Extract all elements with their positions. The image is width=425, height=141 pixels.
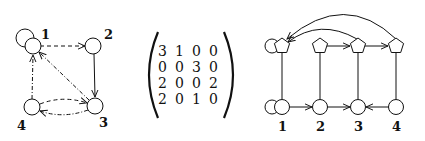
node-4 (24, 99, 40, 115)
matrix-cell: 3 (192, 59, 201, 75)
matrix-cell: 3 (158, 43, 167, 59)
column-label-4: 4 (392, 119, 401, 134)
matrix-cell: 0 (175, 75, 184, 91)
right-graph (265, 15, 404, 115)
diagram-canvas: 1 2 3 4 3 1 0 0 0 0 3 0 2 0 0 2 2 0 1 0 (0, 0, 425, 141)
right-paren (224, 32, 233, 118)
matrix-cell: 0 (158, 59, 167, 75)
matrix-cell: 0 (192, 43, 201, 59)
left-paren (149, 32, 158, 118)
column-label-2: 2 (316, 119, 325, 134)
edge-4-3 (40, 99, 87, 104)
matrix: 3 1 0 0 0 0 3 0 2 0 0 2 2 0 1 0 (149, 32, 233, 118)
pentagon-node-3 (350, 38, 365, 53)
circle-node-4 (389, 100, 404, 115)
node-label-3: 3 (99, 115, 108, 130)
matrix-cell: 1 (175, 43, 184, 59)
edge-3-1 (39, 52, 89, 100)
arc-top4-top1 (287, 15, 396, 40)
matrix-cell: 2 (158, 91, 167, 107)
matrix-cell: 0 (175, 91, 184, 107)
node-1 (25, 38, 41, 54)
pentagon-node-4 (388, 38, 403, 53)
edge-4-1 (32, 55, 33, 99)
matrix-cell: 2 (209, 75, 218, 91)
edge-2-3 (94, 54, 95, 97)
matrix-cell: 0 (209, 91, 218, 107)
node-3 (87, 98, 103, 114)
circle-node-2 (313, 100, 328, 115)
matrix-cell: 0 (192, 75, 201, 91)
matrix-cell: 2 (158, 75, 167, 91)
matrix-cell: 0 (175, 59, 184, 75)
node-2 (85, 38, 101, 54)
matrix-cell: 0 (209, 59, 218, 75)
circle-node-1 (275, 100, 290, 115)
edge-3-4 (40, 110, 88, 115)
pentagon-node-2 (312, 38, 327, 53)
column-label-3: 3 (354, 119, 363, 134)
circle-node-3 (351, 100, 366, 115)
column-label-1: 1 (278, 119, 287, 134)
node-label-2: 2 (104, 27, 113, 42)
left-graph (16, 29, 103, 115)
node-label-1: 1 (41, 27, 50, 42)
matrix-cell: 0 (209, 43, 218, 59)
node-label-4: 4 (17, 118, 26, 133)
matrix-cell: 1 (192, 91, 201, 107)
